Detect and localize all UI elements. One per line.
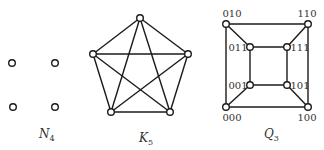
graph-n4: N4 bbox=[9, 60, 59, 143]
graph-vertex bbox=[90, 51, 97, 58]
vertex-label: 001 bbox=[228, 80, 247, 91]
graph-name-label: N4 bbox=[38, 127, 55, 143]
graph-k5: K5 bbox=[90, 15, 192, 147]
graph-edge bbox=[111, 18, 140, 112]
graph-vertex bbox=[284, 82, 291, 89]
graph-edge bbox=[140, 18, 188, 54]
graph-vertex bbox=[52, 104, 59, 111]
vertex-label: 111 bbox=[290, 42, 309, 53]
graph-edge bbox=[93, 18, 140, 54]
graph-vertex bbox=[137, 15, 144, 22]
graph-vertex bbox=[52, 60, 59, 67]
graph-vertex bbox=[9, 60, 16, 67]
graph-vertex bbox=[247, 82, 254, 89]
graph-vertex bbox=[223, 104, 230, 111]
graph-q3: 010110011111001101000100Q3 bbox=[222, 8, 316, 143]
vertex-label: 010 bbox=[222, 8, 241, 19]
graph-vertex bbox=[223, 21, 230, 28]
graph-edge bbox=[93, 54, 170, 112]
vertex-label: 000 bbox=[222, 112, 241, 123]
graph-vertex bbox=[305, 21, 312, 28]
graph-name-label: Q3 bbox=[264, 127, 279, 143]
graph-vertex bbox=[185, 51, 192, 58]
graph-diagram: N4 K5 010110011111001101000100Q3 bbox=[0, 0, 324, 150]
graph-vertex bbox=[284, 44, 291, 51]
graph-vertex bbox=[10, 104, 17, 111]
vertex-label: 110 bbox=[297, 8, 316, 19]
graph-edge bbox=[170, 54, 188, 112]
graph-vertex bbox=[167, 109, 174, 116]
graph-vertex bbox=[305, 104, 312, 111]
graph-edge bbox=[93, 54, 111, 112]
vertex-label: 101 bbox=[290, 80, 309, 91]
graph-name-label: K5 bbox=[138, 131, 153, 147]
graph-edge bbox=[111, 54, 188, 112]
vertex-label: 011 bbox=[228, 42, 247, 53]
graph-vertex bbox=[108, 109, 115, 116]
graph-edge bbox=[140, 18, 170, 112]
vertex-label: 100 bbox=[297, 112, 316, 123]
graph-vertex bbox=[247, 44, 254, 51]
